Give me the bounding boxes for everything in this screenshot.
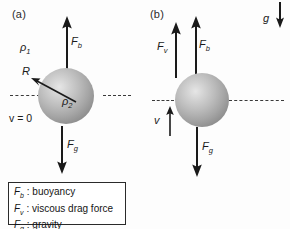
panel-b-centerline-right (229, 100, 284, 101)
panel-a-gravity-label: Fg (67, 138, 78, 153)
legend-row: Fv : viscous drag force (14, 203, 120, 220)
panel-a-radius-label: R (22, 65, 30, 77)
panel-b-viscous-label: Fv (157, 40, 167, 55)
panel-b-buoyancy-subscript: b (206, 44, 210, 53)
legend-description-buoyancy: buoyancy (32, 186, 75, 197)
panel-b-buoyancy-symbol: F (199, 38, 206, 50)
panel-b-viscous-subscript: v (164, 46, 168, 55)
physics-diagram-figure: (a) Fb ρ1 R ρ2 v = 0 Fg (b) Fv (0, 0, 290, 229)
panel-a-gravity-symbol: F (67, 138, 74, 150)
legend-symbol-viscous: Fv (14, 203, 24, 214)
panel-b-viscous-arrow (169, 22, 183, 78)
legend-description-gravity: gravity (32, 219, 61, 229)
gravity-field-label: g (263, 12, 269, 24)
panel-a-outer-density-subscript: 1 (26, 47, 30, 56)
panel-b-gravity-symbol: F (202, 140, 209, 152)
panel-b-sphere (175, 73, 229, 127)
panel-b-gravity-subscript: g (209, 146, 213, 155)
panel-b-gravity-label: Fg (202, 140, 213, 155)
gravity-field-arrow (274, 2, 286, 28)
panel-a-centerline-right (103, 95, 131, 96)
panel-b-velocity-arrow (164, 106, 176, 136)
panel-a-buoyancy-symbol: F (71, 35, 78, 47)
legend-box: Fb : buoyancy Fv : viscous drag force Fg… (8, 182, 126, 225)
panel-b-buoyancy-label: Fb (199, 38, 210, 53)
panel-a-inner-density-subscript: 2 (68, 101, 72, 110)
panel-a-buoyancy-label: Fb (71, 35, 82, 50)
legend-row: Fg : gravity (14, 219, 120, 229)
panel-a-inner-density-label: ρ2 (62, 95, 72, 110)
legend-row: Fb : buoyancy (14, 186, 120, 203)
legend-symbol-gravity: Fg (14, 219, 24, 229)
panel-a-outer-density-label: ρ1 (20, 41, 30, 56)
panel-a-buoyancy-subscript: b (78, 41, 82, 50)
legend-description-viscous: viscous drag force (32, 203, 113, 214)
legend-symbol-buoyancy: Fb (14, 186, 24, 197)
legend-separator-viscous: : (24, 203, 32, 214)
panel-b-viscous-symbol: F (157, 40, 164, 52)
panel-a-label: (a) (12, 8, 26, 20)
panel-b-label: (b) (150, 8, 164, 20)
panel-a-velocity-label: v = 0 (9, 112, 32, 124)
panel-a-gravity-subscript: g (74, 144, 78, 153)
panel-b-velocity-label: v (154, 114, 160, 126)
panel-b-centerline-left (152, 100, 174, 101)
